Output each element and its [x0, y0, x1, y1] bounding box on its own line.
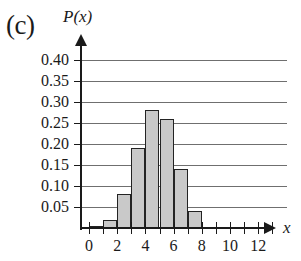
bar-x-7 — [174, 169, 188, 228]
x-tick-mark-3 — [131, 222, 132, 234]
y-tick-mark-0.30 — [74, 102, 82, 103]
y-tick-mark-0.10 — [74, 186, 82, 187]
gridline-0.20 — [81, 144, 287, 145]
x-tick-mark-5 — [160, 222, 161, 234]
y-axis-line — [80, 44, 82, 230]
x-axis-arrow-icon — [264, 222, 276, 234]
x-tick-mark-1 — [103, 222, 104, 234]
x-tick-mark-11 — [244, 222, 245, 234]
bar-x-4 — [131, 148, 145, 228]
y-tick-mark-0.15 — [74, 165, 82, 166]
gridline-0.40 — [81, 60, 287, 61]
gridline-0.15 — [81, 165, 287, 166]
y-tick-label-0.15: 0.15 — [41, 157, 69, 173]
bar-x-3 — [117, 194, 131, 228]
x-tick-mark-9 — [216, 222, 217, 234]
x-axis-title: x — [283, 219, 291, 236]
x-tick-mark-8 — [202, 222, 203, 234]
x-axis-line — [80, 227, 265, 229]
y-tick-label-0.20: 0.20 — [41, 136, 69, 152]
x-tick-label-12: 12 — [246, 238, 270, 254]
x-tick-label-2: 2 — [105, 238, 129, 254]
gridline-0.35 — [81, 81, 287, 82]
x-tick-mark-10 — [230, 222, 231, 234]
y-tick-label-0.10: 0.10 — [41, 178, 69, 194]
y-tick-label-0.40: 0.40 — [41, 52, 69, 68]
x-tick-label-6: 6 — [162, 238, 186, 254]
y-tick-label-0.25: 0.25 — [41, 115, 69, 131]
x-tick-mark-4 — [145, 222, 146, 234]
y-tick-label-0.30: 0.30 — [41, 94, 69, 110]
x-tick-mark-7 — [188, 222, 189, 234]
y-tick-label-0.35: 0.35 — [41, 73, 69, 89]
x-tick-mark-2 — [117, 222, 118, 234]
bar-x-6 — [160, 119, 174, 228]
gridline-0.30 — [81, 102, 287, 103]
figure-panel-c: (c) P(x) x 0.050.100.150.200.250.300.350… — [0, 0, 301, 261]
y-tick-label-0.05: 0.05 — [41, 199, 69, 215]
x-tick-mark-0 — [89, 222, 90, 234]
bar-x-5 — [145, 110, 159, 228]
y-tick-mark-0.40 — [74, 60, 82, 61]
x-tick-label-4: 4 — [133, 238, 157, 254]
y-tick-mark-0.35 — [74, 81, 82, 82]
plot-area: x 0.050.100.150.200.250.300.350.40 02468… — [0, 0, 301, 261]
x-tick-mark-6 — [174, 222, 175, 234]
y-axis-arrow-icon — [75, 34, 87, 46]
y-tick-mark-0.25 — [74, 123, 82, 124]
x-tick-label-8: 8 — [190, 238, 214, 254]
x-tick-mark-13 — [272, 222, 273, 234]
x-tick-label-10: 10 — [218, 238, 242, 254]
bar-x-8 — [188, 211, 202, 228]
y-tick-mark-0.05 — [74, 207, 82, 208]
y-tick-mark-0.20 — [74, 144, 82, 145]
x-tick-mark-12 — [258, 222, 259, 234]
x-tick-label-0: 0 — [77, 238, 101, 254]
gridline-0.25 — [81, 123, 287, 124]
